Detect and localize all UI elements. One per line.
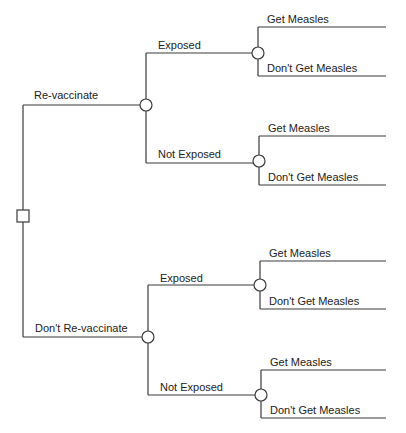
chance-node-lower-exposed-circle-icon <box>254 279 266 291</box>
chance-node-lower-not-exposed-circle-icon <box>255 389 267 401</box>
label-outcome-3-dont-get-measles: Don't Get Measles <box>269 295 359 307</box>
chance-node-dont-revaccinate-circle-icon <box>142 331 154 343</box>
label-dont-revaccinate: Don't Re-vaccinate <box>35 322 128 334</box>
label-outcome-2-get-measles: Get Measles <box>268 122 330 134</box>
label-outcome-3-get-measles: Get Measles <box>269 247 331 259</box>
label-outcome-4-get-measles: Get Measles <box>270 356 332 368</box>
label-outcome-4-dont-get-measles: Don't Get Measles <box>270 404 360 416</box>
label-outcome-1-dont-get-measles: Don't Get Measles <box>267 62 357 74</box>
label-outcome-2-dont-get-measles: Don't Get Measles <box>268 171 358 183</box>
label-lower-not-exposed: Not Exposed <box>160 381 223 393</box>
label-outcome-1-get-measles: Get Measles <box>267 13 329 25</box>
decision-node-square-icon <box>17 210 29 222</box>
chance-node-upper-not-exposed-circle-icon <box>253 155 265 167</box>
label-upper-not-exposed: Not Exposed <box>158 148 221 160</box>
label-lower-exposed: Exposed <box>160 272 203 284</box>
label-revaccinate: Re-vaccinate <box>34 89 98 101</box>
chance-node-upper-exposed-circle-icon <box>252 47 264 59</box>
chance-node-revaccinate-circle-icon <box>140 99 152 111</box>
label-upper-exposed: Exposed <box>158 39 201 51</box>
decision-tree-diagram: Re-vaccinate Don't Re-vaccinate Exposed … <box>0 0 406 433</box>
